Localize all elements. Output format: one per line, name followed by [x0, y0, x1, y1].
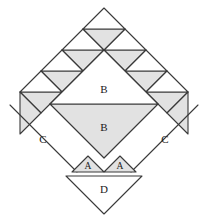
- dissection-diagram-svg: C C B B A A D: [0, 0, 208, 218]
- figure-root: C C B B A A D: [0, 0, 208, 218]
